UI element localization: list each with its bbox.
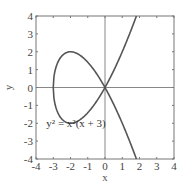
x-tick-label: 3 bbox=[154, 160, 160, 172]
x-tick-label: 4 bbox=[171, 160, 177, 172]
y-tick-label: -3 bbox=[24, 135, 34, 147]
y-tick-label: -1 bbox=[24, 99, 33, 111]
y-tick-label: 1 bbox=[28, 64, 34, 76]
x-tick-label: -3 bbox=[49, 160, 59, 172]
y-tick-label: 3 bbox=[28, 28, 34, 40]
y-axis-label: y bbox=[2, 84, 14, 90]
chart: -4-3-2-101234-4-3-2-101234 x y y² = x²(x… bbox=[0, 0, 187, 187]
y-tick-label: -2 bbox=[24, 117, 33, 129]
x-tick-label: 2 bbox=[137, 160, 143, 172]
x-tick-label: -2 bbox=[66, 160, 75, 172]
curve-branch-upper bbox=[105, 16, 136, 88]
y-tick-label: 4 bbox=[28, 10, 34, 22]
y-tick-label: 0 bbox=[28, 82, 34, 94]
x-tick-label: 1 bbox=[120, 160, 126, 172]
equation-annotation: y² = x²(x + 3) bbox=[46, 117, 106, 130]
y-tick-label: 2 bbox=[28, 46, 34, 58]
x-tick-label: -1 bbox=[83, 160, 92, 172]
y-tick-label: -4 bbox=[24, 153, 34, 165]
x-axis-label: x bbox=[102, 171, 108, 183]
curve-branch-lower bbox=[105, 88, 136, 160]
